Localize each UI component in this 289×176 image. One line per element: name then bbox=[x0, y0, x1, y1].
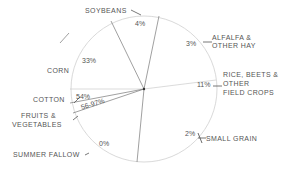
pct-summer-fallow: 0% bbox=[99, 140, 109, 148]
pct-soybeans: 4% bbox=[135, 20, 145, 28]
pct-rice: 11% bbox=[197, 81, 211, 89]
pct-corn: 33% bbox=[82, 57, 96, 65]
label-soybeans: SOYBEANS bbox=[85, 7, 127, 15]
pct-small-grain: 2% bbox=[185, 130, 195, 138]
label-cotton: COTTON bbox=[33, 96, 65, 104]
label-corn: CORN bbox=[47, 67, 69, 75]
pct-cotton: 54% bbox=[76, 93, 90, 101]
pie-center bbox=[143, 88, 145, 90]
label-rice-line2: OTHER bbox=[223, 80, 250, 88]
label-small-grain: SMALL GRAIN bbox=[206, 135, 257, 143]
label-alfalfa-line1: ALFALFA & bbox=[212, 34, 251, 42]
label-fruits-line1: FRUITS & bbox=[21, 112, 56, 120]
label-summer-fallow: SUMMER FALLOW bbox=[13, 151, 80, 159]
label-rice-line1: RICE, BEETS & bbox=[223, 71, 278, 79]
pct-alfalfa: 3% bbox=[186, 40, 196, 48]
label-rice-line3: FIELD CROPS bbox=[223, 89, 274, 97]
label-alfalfa-line2: OTHER HAY bbox=[212, 42, 256, 50]
label-fruits-line2: VEGETABLES bbox=[12, 121, 62, 129]
